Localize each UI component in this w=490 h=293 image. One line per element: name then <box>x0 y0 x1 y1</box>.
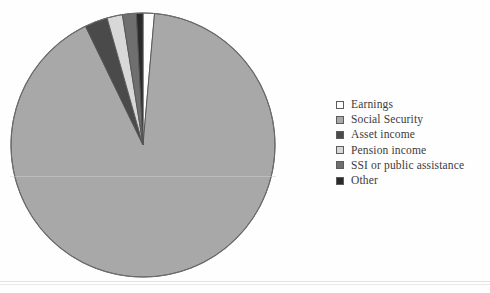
legend-item-label: Pension income <box>351 143 426 158</box>
legend-swatch-other <box>336 177 344 185</box>
chart-legend: EarningsSocial SecurityAsset incomePensi… <box>336 97 484 188</box>
legend-item-label: Social Security <box>351 112 423 127</box>
legend-swatch-pension-income <box>336 146 344 154</box>
pie-slice-group <box>11 13 275 277</box>
legend-swatch-earnings <box>336 101 344 109</box>
legend-item[interactable]: SSI or public assistance <box>336 158 484 173</box>
legend-item[interactable]: Other <box>336 173 484 188</box>
pie-chart <box>9 11 277 279</box>
legend-item-label: Asset income <box>351 127 415 142</box>
legend-item-label: Other <box>351 173 378 188</box>
pie-chart-svg <box>9 11 277 279</box>
legend-item[interactable]: Pension income <box>336 143 484 158</box>
legend-swatch-ssi <box>336 161 344 169</box>
legend-item[interactable]: Earnings <box>336 97 484 112</box>
legend-item-label: SSI or public assistance <box>351 158 464 173</box>
scan-artifact-line-bottom <box>0 281 490 282</box>
pie-chart-figure: EarningsSocial SecurityAsset incomePensi… <box>0 0 490 293</box>
legend-item[interactable]: Asset income <box>336 127 484 142</box>
legend-item[interactable]: Social Security <box>336 112 484 127</box>
scan-artifact-line-bottom-secondary <box>0 284 490 285</box>
legend-item-label: Earnings <box>351 97 393 112</box>
scan-artifact-line <box>10 176 276 177</box>
legend-swatch-asset-income <box>336 131 344 139</box>
legend-swatch-social-security <box>336 116 344 124</box>
